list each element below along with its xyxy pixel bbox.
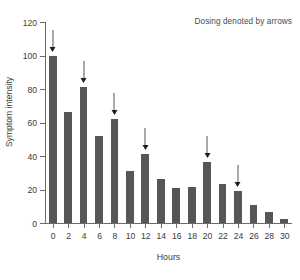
bar bbox=[188, 187, 196, 223]
x-axis-tick-label: 22 bbox=[218, 231, 228, 241]
x-axis-title: Hours bbox=[45, 252, 292, 262]
plot-area: 0204060801001200246810121416182022242628… bbox=[45, 22, 292, 224]
bar bbox=[95, 136, 103, 223]
y-axis-tick-label: 20 bbox=[27, 185, 37, 195]
x-axis-tick: 20 bbox=[207, 224, 208, 228]
dosing-arrow-shaft bbox=[145, 128, 146, 145]
bar bbox=[111, 119, 119, 223]
x-axis-tick-label: 2 bbox=[66, 231, 71, 241]
dosing-arrow-icon bbox=[80, 61, 87, 83]
x-axis-tick-label: 16 bbox=[172, 231, 182, 241]
dosing-arrow-shaft bbox=[83, 61, 84, 78]
bar bbox=[280, 219, 288, 223]
x-axis-tick-label: 0 bbox=[51, 231, 56, 241]
y-axis-title: Symptom intensity bbox=[2, 0, 16, 224]
y-axis-line bbox=[45, 22, 46, 224]
x-axis-tick-label: 18 bbox=[187, 231, 197, 241]
y-axis-tick-label: 120 bbox=[23, 18, 37, 28]
x-axis-tick: 16 bbox=[176, 224, 177, 228]
x-axis-tick-label: 28 bbox=[265, 231, 275, 241]
bar bbox=[250, 205, 258, 223]
x-axis-tick: 4 bbox=[84, 224, 85, 228]
x-axis-tick-label: 14 bbox=[157, 231, 167, 241]
x-axis-tick-label: 6 bbox=[97, 231, 102, 241]
dosing-arrow-shaft bbox=[114, 93, 115, 110]
dosing-arrow-shaft bbox=[52, 30, 53, 47]
x-axis-tick-label: 30 bbox=[280, 231, 290, 241]
x-axis-tick: 10 bbox=[130, 224, 131, 228]
y-axis-title-text: Symptom intensity bbox=[4, 77, 14, 147]
y-axis-tick-label: 60 bbox=[27, 118, 37, 128]
y-axis-tick-label: 40 bbox=[27, 152, 37, 162]
dosing-arrow-head bbox=[111, 110, 117, 115]
bar bbox=[141, 154, 149, 223]
y-axis-tick: 120 bbox=[40, 22, 45, 23]
bar bbox=[203, 162, 211, 223]
dosing-arrow-shaft bbox=[237, 165, 238, 182]
dosing-arrow-icon bbox=[204, 136, 211, 158]
bar bbox=[219, 184, 227, 223]
y-axis-tick-label: 80 bbox=[27, 85, 37, 95]
dosing-arrow-head bbox=[142, 145, 148, 150]
bar bbox=[64, 112, 72, 223]
x-axis-tick: 0 bbox=[53, 224, 54, 228]
y-axis-tick: 60 bbox=[40, 123, 45, 124]
x-axis-tick-label: 20 bbox=[203, 231, 213, 241]
x-axis-line bbox=[45, 223, 292, 224]
x-axis-tick: 2 bbox=[68, 224, 69, 228]
bar bbox=[157, 179, 165, 223]
dosing-arrow-head bbox=[81, 78, 87, 83]
dosing-arrow-head bbox=[235, 182, 241, 187]
dosing-arrow-head bbox=[50, 47, 56, 52]
x-axis-tick: 18 bbox=[192, 224, 193, 228]
x-axis-tick: 26 bbox=[253, 224, 254, 228]
bar bbox=[49, 56, 57, 224]
x-axis-tick: 28 bbox=[269, 224, 270, 228]
y-axis-tick: 100 bbox=[40, 56, 45, 57]
y-axis-tick: 20 bbox=[40, 190, 45, 191]
dosing-arrow-shaft bbox=[207, 136, 208, 153]
x-axis-tick: 30 bbox=[284, 224, 285, 228]
x-axis-tick-label: 4 bbox=[82, 231, 87, 241]
bar bbox=[172, 188, 180, 223]
y-axis-tick: 40 bbox=[40, 156, 45, 157]
y-axis-tick-label: 100 bbox=[23, 51, 37, 61]
x-axis-tick: 14 bbox=[161, 224, 162, 228]
symptom-intensity-bar-chart: Dosing denoted by arrows Symptom intensi… bbox=[0, 0, 300, 280]
x-axis-tick-label: 8 bbox=[113, 231, 118, 241]
x-axis-tick: 24 bbox=[238, 224, 239, 228]
x-axis-tick: 6 bbox=[99, 224, 100, 228]
bar bbox=[126, 171, 134, 223]
dosing-arrow-icon bbox=[142, 128, 149, 150]
dosing-arrow-icon bbox=[234, 165, 241, 187]
x-axis-tick-label: 26 bbox=[249, 231, 259, 241]
x-axis-tick: 22 bbox=[223, 224, 224, 228]
x-axis-tick: 8 bbox=[114, 224, 115, 228]
y-axis-tick: 0 bbox=[40, 223, 45, 224]
x-axis-tick-label: 10 bbox=[126, 231, 136, 241]
bar bbox=[234, 191, 242, 223]
x-axis-tick-label: 12 bbox=[141, 231, 151, 241]
x-axis-tick-label: 24 bbox=[234, 231, 244, 241]
y-axis-tick-label: 0 bbox=[32, 219, 37, 229]
y-axis-tick: 80 bbox=[40, 89, 45, 90]
x-axis-tick: 12 bbox=[145, 224, 146, 228]
dosing-arrow-head bbox=[204, 153, 210, 158]
bar bbox=[265, 212, 273, 223]
dosing-arrow-icon bbox=[111, 93, 118, 115]
bar bbox=[80, 87, 88, 223]
dosing-arrow-icon bbox=[49, 30, 56, 52]
